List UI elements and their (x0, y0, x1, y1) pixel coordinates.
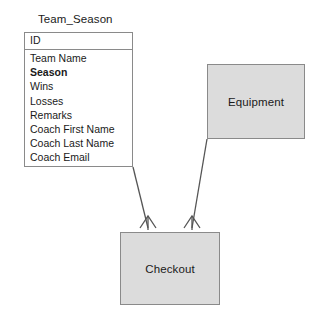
entity-attribute-row: Coach Email (30, 150, 132, 164)
entity-label-equipment: Equipment (228, 96, 284, 108)
entity-attribute-row: Remarks (30, 108, 132, 122)
entity-attribute-row: Coach Last Name (30, 136, 132, 150)
relationship-equipment-to-checkout[interactable] (184, 139, 207, 230)
entity-attribute-list: Team NameSeasonWinsLossesRemarksCoach Fi… (25, 50, 132, 167)
entity-attribute-row: Coach First Name (30, 122, 132, 136)
entity-equipment[interactable]: Equipment (207, 64, 305, 139)
entity-label-checkout: Checkout (145, 263, 194, 275)
relationship-line (192, 139, 207, 228)
entity-attribute-row: Wins (30, 79, 132, 93)
entity-attribute-row: Losses (30, 94, 132, 108)
relationship-team-season-to-checkout[interactable] (133, 167, 156, 230)
entity-attribute-row: Season (30, 65, 132, 79)
entity-checkout[interactable]: Checkout (120, 232, 220, 305)
entity-attribute-row: Team Name (30, 51, 132, 65)
er-diagram-canvas: Team_Season ID Team NameSeasonWinsLosses… (0, 0, 331, 313)
entity-title-team-season: Team_Season (38, 13, 113, 25)
entity-key-field-id: ID (25, 33, 132, 50)
entity-team-season[interactable]: ID Team NameSeasonWinsLossesRemarksCoach… (24, 32, 133, 167)
